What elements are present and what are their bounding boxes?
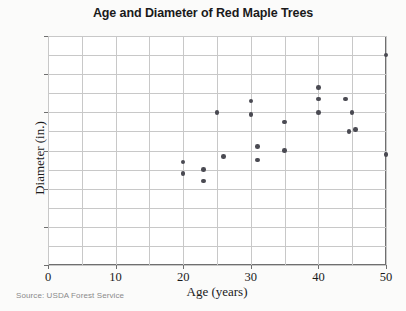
gridline-vertical xyxy=(352,36,353,265)
data-point xyxy=(343,97,348,102)
data-point xyxy=(384,53,389,58)
data-point xyxy=(316,110,321,115)
data-point xyxy=(384,152,389,157)
source-note: Source: USDA Forest Service xyxy=(16,291,124,300)
y-axis-label: Diameter (in.) xyxy=(32,68,48,248)
gridline-vertical xyxy=(217,36,218,265)
gridline-vertical xyxy=(183,36,184,265)
gridline-vertical xyxy=(251,36,252,265)
x-tick-label: 0 xyxy=(28,270,68,285)
data-point xyxy=(255,158,260,163)
data-point xyxy=(282,120,287,125)
chart-figure: Age and Diameter of Red Maple Trees 0246… xyxy=(0,0,406,311)
data-point xyxy=(353,127,358,132)
data-point xyxy=(316,85,321,90)
x-tick-label: 20 xyxy=(163,270,203,285)
gridline-vertical xyxy=(48,36,49,265)
data-point xyxy=(282,148,287,153)
data-point xyxy=(316,97,321,102)
x-tick-label: 10 xyxy=(96,270,136,285)
data-point xyxy=(249,112,254,117)
data-point xyxy=(215,110,220,115)
x-tick-label: 30 xyxy=(231,270,271,285)
plot-wrapper xyxy=(48,36,386,265)
chart-title: Age and Diameter of Red Maple Trees xyxy=(0,6,406,20)
gridline-vertical xyxy=(82,36,83,265)
data-point xyxy=(201,179,206,184)
y-tick-mark xyxy=(44,36,48,37)
x-tick-mark xyxy=(386,265,387,269)
gridline-vertical xyxy=(149,36,150,265)
gridline-vertical xyxy=(386,36,387,265)
data-point xyxy=(201,167,206,172)
gridline-vertical xyxy=(116,36,117,265)
gridline-vertical xyxy=(318,36,319,265)
data-point xyxy=(347,129,352,134)
data-point xyxy=(255,144,260,149)
data-point xyxy=(221,154,226,159)
x-tick-label: 40 xyxy=(298,270,338,285)
x-tick-label: 50 xyxy=(366,270,406,285)
